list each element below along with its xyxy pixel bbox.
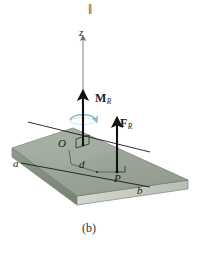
force-label: FR bbox=[120, 117, 132, 129]
axis-a-label: a bbox=[13, 158, 19, 169]
distance-label: d bbox=[79, 159, 85, 170]
moment-label-symbol: M bbox=[95, 91, 106, 105]
moment-label: MR bbox=[95, 92, 111, 104]
figure-container: ‖ bbox=[0, 0, 199, 253]
origin-label: O bbox=[58, 138, 66, 149]
point-p-label: P bbox=[114, 173, 121, 184]
figure-caption: (b) bbox=[82, 222, 96, 234]
dimension-tick-d bbox=[96, 171, 98, 173]
force-label-symbol: F bbox=[120, 116, 127, 130]
moment-label-subscript: R bbox=[107, 97, 112, 106]
diagram-canvas bbox=[0, 0, 199, 253]
force-label-subscript: R bbox=[128, 122, 133, 131]
point-o-marker bbox=[82, 144, 85, 147]
axis-b-label: b bbox=[137, 185, 143, 196]
z-axis-label: z bbox=[79, 27, 83, 38]
